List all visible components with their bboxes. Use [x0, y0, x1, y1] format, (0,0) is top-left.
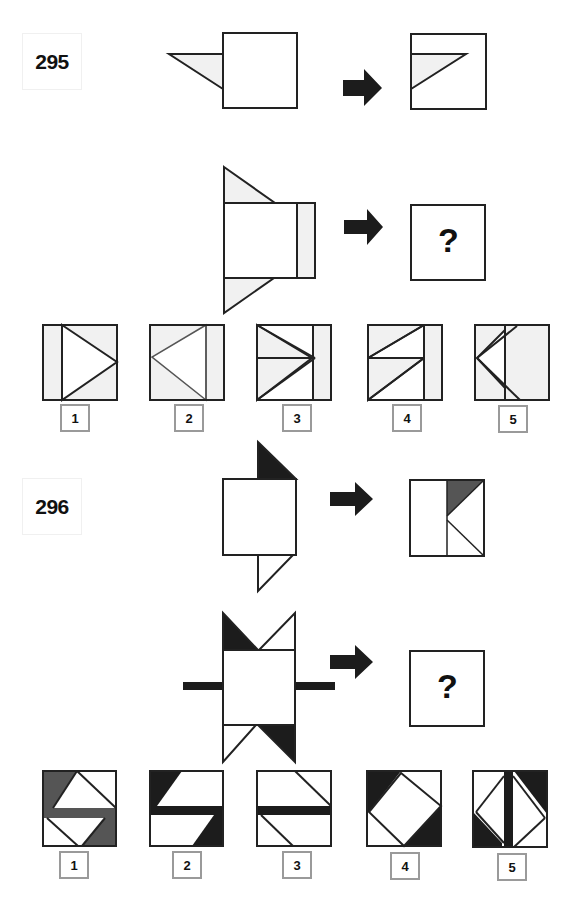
puzzle-canvas	[0, 0, 579, 919]
arrow-icon	[330, 645, 373, 679]
p296-option-4-figure[interactable]	[367, 771, 441, 846]
p295-example-output	[411, 34, 486, 109]
question-mark-295: ?	[411, 221, 486, 260]
p296-option-5-label[interactable]: 5	[497, 853, 527, 881]
p296-example-output	[410, 480, 484, 556]
p296-question-input	[183, 613, 335, 762]
p295-option-2-figure[interactable]	[150, 325, 224, 400]
p295-option-4-figure[interactable]	[368, 325, 442, 400]
p296-option-2-figure[interactable]	[150, 771, 223, 846]
p295-question-input	[224, 167, 315, 313]
p295-option-5-label[interactable]: 5	[498, 405, 528, 433]
p295-option-1-figure[interactable]	[43, 325, 117, 400]
p295-option-3-figure[interactable]	[257, 325, 331, 400]
p295-option-4-label[interactable]: 4	[392, 404, 422, 432]
p296-option-2-label[interactable]: 2	[172, 851, 202, 879]
arrow-icon	[343, 69, 382, 106]
p296-option-3-label[interactable]: 3	[282, 851, 312, 879]
p296-option-1-label[interactable]: 1	[59, 851, 89, 879]
p295-option-3-label[interactable]: 3	[282, 404, 312, 432]
p296-example-input	[223, 442, 296, 591]
p295-option-2-label[interactable]: 2	[174, 404, 204, 432]
p296-option-5-figure[interactable]	[473, 771, 547, 847]
p295-option-5-figure[interactable]	[475, 325, 549, 400]
p296-option-3-figure[interactable]	[257, 771, 331, 846]
question-mark-296: ?	[410, 667, 485, 706]
arrow-icon	[330, 482, 373, 516]
p295-example-input	[169, 33, 297, 108]
puzzle-number-295: 295	[22, 33, 82, 90]
puzzle-number-296: 296	[22, 478, 82, 535]
arrow-icon	[344, 209, 383, 245]
p295-option-1-label[interactable]: 1	[60, 404, 90, 432]
p296-option-4-label[interactable]: 4	[390, 852, 420, 880]
p296-option-1-figure[interactable]	[43, 771, 116, 846]
